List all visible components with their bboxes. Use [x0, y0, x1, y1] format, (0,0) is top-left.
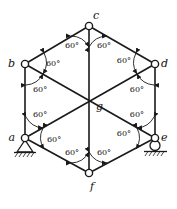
node-label-b: b [8, 57, 15, 70]
angle-label-a-lower: 60° [47, 135, 61, 144]
arc-a-lower [41, 128, 44, 149]
angle-label-f-right: 60° [97, 148, 111, 157]
node-label-f: f [89, 180, 96, 193]
angle-label-e-upper: 60° [130, 110, 144, 119]
angle-label-b-upper: 60° [46, 59, 60, 68]
angle-label-d-lower: 60° [130, 85, 144, 94]
arc-d-upper [134, 53, 137, 74]
joint-f [85, 169, 92, 176]
angle-label-f-left: 60° [65, 148, 79, 157]
angle-label-c-right: 60° [97, 41, 111, 50]
truss-members [25, 26, 155, 173]
joint-a [21, 134, 28, 141]
node-label-d: d [161, 57, 168, 70]
node-label-a: a [8, 131, 15, 144]
node-label-e: e [161, 131, 168, 144]
angle-label-a-upper: 60° [33, 110, 47, 119]
node-label-g: g [96, 100, 103, 113]
joint-c [85, 22, 92, 29]
arc-b-lower [26, 74, 43, 85]
node-labels: a b c d e f g [8, 9, 168, 193]
truss-figure: a b c d e f g 60° 60° 60° 60° 60° 60° 60… [0, 0, 177, 209]
joint-e [151, 134, 158, 141]
joint-d [151, 60, 158, 67]
truss-diagram-svg: a b c d e f g 60° 60° 60° 60° 60° 60° 60… [0, 0, 177, 209]
angle-label-e-lower: 60° [117, 129, 131, 138]
angle-label-d-upper: 60° [117, 56, 131, 65]
node-label-c: c [93, 9, 99, 22]
joint-b [21, 60, 28, 67]
angle-arcs [26, 36, 154, 163]
arc-d-lower [137, 74, 154, 85]
ground-hatch-e [145, 152, 164, 157]
angle-label-b-lower: 60° [33, 85, 47, 94]
ground-hatch-a [15, 153, 34, 158]
angle-label-c-left: 60° [65, 41, 79, 50]
